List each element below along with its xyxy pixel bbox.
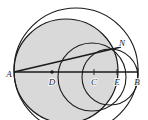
point-label-B: B [134,77,140,87]
point-dot-D [50,70,53,73]
point-label-E: E [113,77,120,87]
shaded-circle [14,19,118,120]
point-label-N: N [118,38,126,48]
geometry-svg: A D C E B N [0,0,148,120]
point-label-C: C [91,77,98,87]
point-label-D: D [48,77,56,87]
point-label-A: A [5,69,12,79]
geometry-figure: A D C E B N [0,0,148,120]
